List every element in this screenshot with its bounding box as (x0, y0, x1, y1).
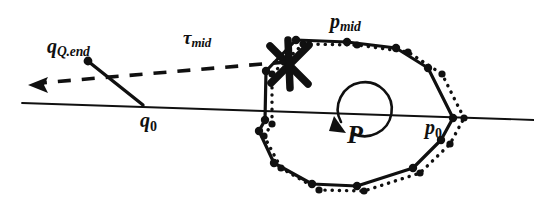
diagram-svg (0, 0, 534, 216)
label-p-zero-base: p (425, 116, 435, 138)
label-q-end-base: q (47, 35, 57, 57)
label-polygon-p: P (347, 122, 363, 148)
tau-mid-dashed-line (40, 62, 286, 83)
label-p-zero: p0 (425, 117, 442, 141)
tau-mid-arrowhead-icon (28, 77, 48, 93)
label-q-zero-sub: 0 (150, 119, 157, 134)
rotation-arrowhead-icon (329, 116, 346, 133)
label-tau-mid: τmid (183, 28, 211, 50)
label-q-end-sub: Q.end (57, 44, 90, 59)
label-tau-mid-sub: mid (191, 35, 210, 50)
q-segment-line (89, 62, 143, 105)
figure-canvas: qQ.end τmid pmid q0 p0 P (0, 0, 534, 216)
label-p-mid-sub: mid (340, 19, 361, 34)
label-p-mid: pmid (330, 11, 361, 34)
rotation-arc (338, 82, 392, 136)
label-p-mid-base: p (330, 10, 340, 32)
label-q-end: qQ.end (47, 36, 90, 59)
label-p-zero-sub: 0 (435, 126, 442, 141)
label-q-zero: q0 (140, 110, 157, 134)
label-polygon-p-base: P (347, 120, 363, 149)
label-q-zero-base: q (140, 109, 150, 131)
